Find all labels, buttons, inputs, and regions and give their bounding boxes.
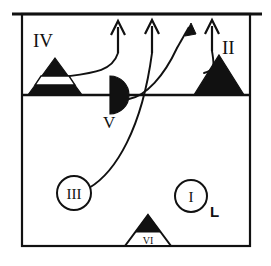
marker-iv-white-band (35, 76, 75, 85)
marker-ii-label: II (222, 37, 235, 58)
marker-v-label: V (103, 113, 116, 132)
label-l: L (210, 203, 219, 220)
marker-iii-label: III (67, 186, 82, 202)
marker-i[interactable]: I (175, 180, 207, 212)
marker-iii[interactable]: III (57, 176, 91, 210)
marker-iv-label: IV (33, 30, 53, 51)
cross-section-diagram: IV II V III I L VI (0, 0, 271, 266)
figure-canvas: IV II V III I L VI (0, 0, 271, 266)
marker-i-label: I (189, 189, 194, 205)
marker-vi-label: VI (143, 235, 154, 246)
